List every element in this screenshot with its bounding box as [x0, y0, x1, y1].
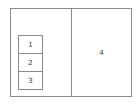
right-panel-label: 4 [72, 9, 131, 96]
layout-frame: 1 2 3 4 [10, 8, 132, 97]
left-cell-stack: 1 2 3 [18, 35, 43, 90]
cell-1: 1 [19, 36, 42, 54]
cell-3: 3 [19, 72, 42, 89]
cell-2: 2 [19, 54, 42, 72]
